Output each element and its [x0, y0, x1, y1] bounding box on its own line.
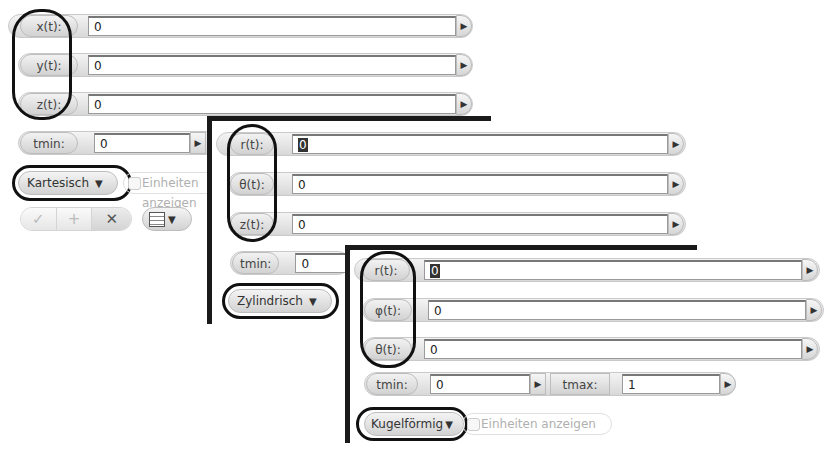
z-input[interactable]: 0: [292, 214, 668, 234]
highlight-oval: [222, 283, 339, 319]
r-input[interactable]: 0: [424, 260, 802, 280]
highlight-oval: [360, 251, 416, 368]
panel-border-left: [207, 116, 212, 324]
tmin-label: tmin:: [20, 132, 78, 154]
tmin-arrow-button[interactable]: ▶: [530, 373, 546, 395]
remove-button[interactable]: ✕: [92, 208, 131, 230]
phi-input[interactable]: 0: [428, 300, 806, 320]
list-icon: [149, 212, 165, 227]
r-input[interactable]: 0: [292, 134, 668, 154]
panel-border-left: [345, 245, 350, 443]
theta-input[interactable]: 0: [424, 339, 802, 359]
phi-row: φ(t): 0 ▶: [362, 298, 824, 322]
tmin-row: tmin: 0 ▶: [18, 131, 218, 155]
x-input[interactable]: 0: [88, 16, 456, 36]
tmin-tmax-row: tmin: 0 ▶ tmax: 1 ▶: [364, 372, 736, 396]
panel-border-top: [345, 245, 697, 250]
panel-border-top: [207, 116, 491, 121]
checkbox-box[interactable]: [467, 418, 480, 431]
tmin-input[interactable]: 0: [295, 253, 350, 273]
x-row: x(t): 0 ▶: [8, 14, 473, 38]
units-label: Einheiten anzeigen: [142, 176, 199, 210]
chevron-down-icon: ▼: [168, 214, 176, 225]
tmax-label: tmax:: [550, 373, 610, 395]
tmax-input[interactable]: 1: [622, 374, 720, 394]
action-button-group: ✓ + ✕: [20, 207, 132, 231]
r-row: r(t): 0 ▶: [216, 132, 686, 156]
theta-input[interactable]: 0: [292, 174, 668, 194]
theta-row: θ(t): 0 ▶: [362, 337, 820, 361]
highlight-oval: [12, 165, 132, 201]
units-checkbox[interactable]: Einheiten anzeigen: [462, 413, 612, 435]
confirm-button[interactable]: ✓: [21, 208, 57, 230]
highlight-oval: [356, 407, 468, 441]
units-label: Einheiten anzeigen: [481, 417, 596, 431]
tmax-arrow-button[interactable]: ▶: [720, 373, 736, 395]
checkbox-box[interactable]: [128, 177, 141, 190]
tmin-label: tmin:: [232, 252, 279, 274]
tmin-label: tmin:: [366, 373, 418, 395]
highlight-oval: [227, 124, 277, 242]
tmin-input[interactable]: 0: [430, 374, 530, 394]
z-input[interactable]: 0: [88, 94, 456, 114]
theta-row: θ(t): 0 ▶: [228, 172, 686, 196]
add-button[interactable]: +: [57, 208, 93, 230]
highlight-oval: [12, 9, 72, 120]
tmin-row: tmin: 0: [230, 251, 350, 275]
y-row: y(t): 0 ▶: [18, 53, 473, 77]
list-style-dropdown[interactable]: ▼: [142, 207, 192, 231]
tmin-arrow-button[interactable]: ▶: [190, 132, 206, 154]
z-row: z(t): 0 ▶: [228, 212, 686, 236]
z-row: z(t): 0 ▶: [18, 92, 473, 116]
tmin-input[interactable]: 0: [94, 133, 190, 153]
y-input[interactable]: 0: [88, 55, 456, 75]
r-row: r(t): 0 ▶: [354, 258, 820, 282]
